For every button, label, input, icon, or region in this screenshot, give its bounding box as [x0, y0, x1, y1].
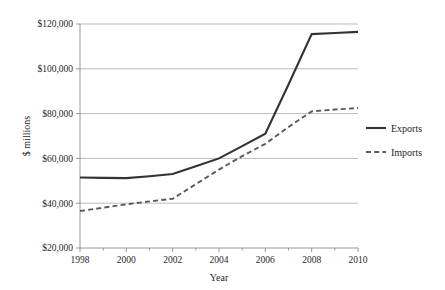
y-tick-label: $40,000	[42, 199, 73, 209]
x-axis-title: Year	[210, 272, 229, 283]
y-tick-label: $80,000	[42, 109, 73, 119]
y-axis-title: $ millions	[21, 116, 32, 156]
y-tick-label: $60,000	[42, 154, 73, 164]
x-tick-label: 2008	[302, 255, 321, 265]
x-tick-label: 2004	[210, 255, 229, 265]
legend-label-imports[interactable]: Imports	[391, 147, 422, 158]
y-tick-label: $20,000	[42, 243, 73, 253]
x-tick-label: 1998	[71, 255, 90, 265]
chart-figure: $20,000$40,000$60,000$80,000$100,000$120…	[0, 0, 445, 290]
legend-label-exports[interactable]: Exports	[391, 123, 422, 134]
x-tick-label: 2006	[256, 255, 275, 265]
x-tick-label: 2000	[117, 255, 136, 265]
x-tick-label: 2010	[349, 255, 368, 265]
x-tick-label: 2002	[163, 255, 182, 265]
y-tick-label: $100,000	[37, 64, 73, 74]
line-chart: $20,000$40,000$60,000$80,000$100,000$120…	[0, 0, 445, 290]
y-tick-label: $120,000	[37, 19, 73, 29]
